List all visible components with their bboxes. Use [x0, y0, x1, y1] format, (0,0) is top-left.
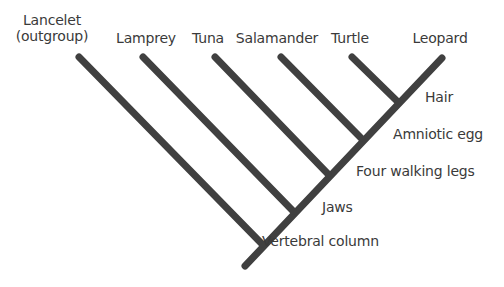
taxon-label-turtle: Turtle: [331, 30, 369, 46]
branch-line-salamander: [281, 57, 361, 138]
character-label-amniotic-egg: Amniotic egg: [393, 126, 483, 142]
taxon-subtitle: (outgroup): [16, 28, 89, 44]
character-label-hair: Hair: [425, 89, 453, 105]
character-label-jaws: Jaws: [322, 199, 353, 215]
branch-line-tuna: [215, 57, 328, 174]
taxon-name: Lancelet: [16, 12, 89, 28]
taxon-name: Leopard: [412, 30, 467, 46]
taxon-name: Lamprey: [116, 30, 176, 46]
taxon-label-leopard: Leopard: [412, 30, 467, 46]
branch-line-lamprey: [143, 57, 293, 211]
character-label-vertebral-column: Vertebral column: [262, 233, 379, 249]
branch-line-turtle: [352, 57, 397, 101]
taxon-label-salamander: Salamander: [236, 30, 318, 46]
taxon-name: Turtle: [331, 30, 369, 46]
taxon-label-lancelet: Lancelet(outgroup): [16, 12, 89, 44]
character-label-four-walking-legs: Four walking legs: [356, 163, 475, 179]
taxon-name: Salamander: [236, 30, 318, 46]
taxon-label-tuna: Tuna: [192, 30, 224, 46]
taxon-label-lamprey: Lamprey: [116, 30, 176, 46]
taxon-name: Tuna: [192, 30, 224, 46]
